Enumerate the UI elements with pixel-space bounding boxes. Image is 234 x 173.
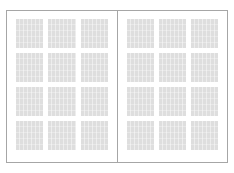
placeholder-thumbnail[interactable]: [127, 87, 154, 116]
placeholder-thumbnail[interactable]: [159, 87, 186, 116]
left-page-placeholder-grid: [16, 19, 108, 150]
placeholder-thumbnail[interactable]: [81, 121, 108, 150]
placeholder-thumbnail[interactable]: [191, 87, 218, 116]
placeholder-thumbnail[interactable]: [16, 87, 43, 116]
placeholder-thumbnail[interactable]: [191, 121, 218, 150]
placeholder-thumbnail[interactable]: [127, 121, 154, 150]
placeholder-thumbnail[interactable]: [48, 87, 75, 116]
placeholder-thumbnail[interactable]: [159, 121, 186, 150]
placeholder-thumbnail[interactable]: [16, 19, 43, 48]
right-page: [117, 11, 227, 162]
placeholder-thumbnail[interactable]: [16, 53, 43, 82]
two-page-spread: [6, 10, 228, 163]
placeholder-thumbnail[interactable]: [159, 19, 186, 48]
placeholder-thumbnail[interactable]: [159, 53, 186, 82]
placeholder-thumbnail[interactable]: [191, 19, 218, 48]
placeholder-thumbnail[interactable]: [127, 53, 154, 82]
left-page: [7, 11, 117, 162]
placeholder-thumbnail[interactable]: [81, 53, 108, 82]
placeholder-thumbnail[interactable]: [81, 19, 108, 48]
placeholder-thumbnail[interactable]: [191, 53, 218, 82]
placeholder-thumbnail[interactable]: [81, 87, 108, 116]
placeholder-thumbnail[interactable]: [16, 121, 43, 150]
placeholder-thumbnail[interactable]: [48, 53, 75, 82]
placeholder-thumbnail[interactable]: [48, 121, 75, 150]
right-page-placeholder-grid: [127, 19, 218, 150]
placeholder-thumbnail[interactable]: [48, 19, 75, 48]
placeholder-thumbnail[interactable]: [127, 19, 154, 48]
